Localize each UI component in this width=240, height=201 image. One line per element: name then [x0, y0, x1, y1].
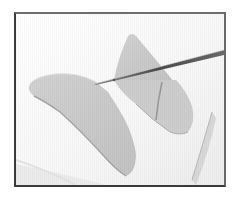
canvas: [0, 0, 240, 201]
photo-frame: [14, 12, 226, 187]
scan-texture: [16, 14, 224, 185]
clay-photo: [16, 14, 224, 185]
